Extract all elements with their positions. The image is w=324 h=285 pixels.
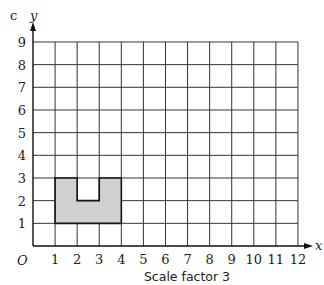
y-tick-label: 8 bbox=[18, 58, 26, 73]
y-axis-label: y bbox=[29, 8, 38, 23]
y-tick-label: 1 bbox=[18, 216, 26, 231]
x-tick-label: 11 bbox=[268, 252, 285, 267]
part-label: c bbox=[10, 8, 17, 23]
x-axis-label: x bbox=[315, 238, 323, 253]
x-tick-label: 7 bbox=[183, 252, 191, 267]
coordinate-grid-diagram: c y x O 123456789101112 123456789 Scale … bbox=[0, 0, 324, 285]
y-tick-label: 9 bbox=[18, 35, 26, 50]
x-tick-label: 3 bbox=[95, 252, 103, 267]
y-tick-label: 3 bbox=[18, 171, 26, 186]
y-tick-label: 5 bbox=[18, 126, 26, 141]
shaded-shape bbox=[55, 178, 121, 223]
y-tick-label: 2 bbox=[18, 194, 26, 209]
x-tick-label: 1 bbox=[51, 252, 59, 267]
x-tick-label: 6 bbox=[161, 252, 169, 267]
x-tick-label: 10 bbox=[246, 252, 263, 267]
x-tick-label: 2 bbox=[73, 252, 81, 267]
x-tick-label: 4 bbox=[117, 252, 125, 267]
x-axis-arrow-icon bbox=[304, 243, 313, 249]
y-tick-label: 7 bbox=[18, 80, 26, 95]
x-tick-labels: 123456789101112 bbox=[51, 252, 306, 267]
x-tick-label: 12 bbox=[290, 252, 307, 267]
caption: Scale factor 3 bbox=[144, 269, 230, 284]
y-tick-labels: 123456789 bbox=[18, 35, 26, 231]
x-tick-label: 5 bbox=[139, 252, 147, 267]
x-tick-label: 8 bbox=[205, 252, 213, 267]
y-tick-label: 4 bbox=[18, 148, 26, 163]
x-tick-label: 9 bbox=[228, 252, 236, 267]
y-axis-arrow-icon bbox=[30, 22, 36, 31]
origin-label: O bbox=[17, 253, 28, 268]
y-tick-label: 6 bbox=[18, 103, 26, 118]
